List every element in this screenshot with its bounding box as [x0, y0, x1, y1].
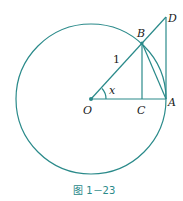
chord-BA	[142, 43, 166, 99]
unit-circle-diagram: O C A B D 1 x 图 1－23	[0, 0, 183, 201]
label-D: D	[167, 12, 177, 25]
label-O: O	[83, 104, 92, 117]
label-C: C	[137, 104, 146, 117]
label-B: B	[136, 27, 145, 40]
figure-caption: 图 1－23	[73, 185, 115, 196]
center-point	[89, 97, 93, 101]
label-A: A	[167, 96, 176, 109]
point-B	[140, 41, 143, 44]
segment-OD	[91, 17, 166, 99]
label-radius: 1	[113, 53, 120, 66]
angle-arc	[102, 89, 106, 100]
label-angle: x	[109, 84, 116, 97]
